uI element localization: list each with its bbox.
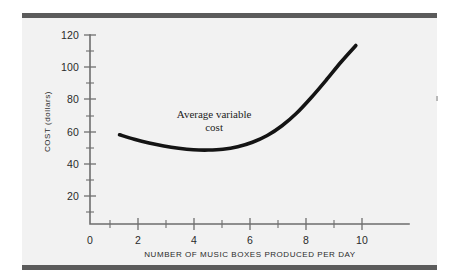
x-tick-label: 4	[191, 234, 197, 246]
axes	[90, 35, 409, 224]
x-tick-label: 10	[356, 234, 368, 246]
cost-curve-chart: 120 100 80 60 40 20 COST (dollars) 0	[0, 0, 459, 278]
average-variable-cost-label: Average variable cost	[177, 108, 252, 133]
y-axis-tick-labels: 120 100 80 60 40 20	[61, 29, 79, 202]
axis-lines	[90, 35, 409, 224]
average-variable-cost-curve	[120, 46, 356, 151]
y-axis-title: COST (dollars)	[43, 91, 52, 152]
x-tick-label: 2	[135, 234, 141, 246]
x-tick-label: 6	[247, 234, 253, 246]
x-tick-label: 8	[303, 234, 309, 246]
figure-container: 120 100 80 60 40 20 COST (dollars) 0	[0, 0, 459, 278]
y-tick-label: 80	[67, 93, 79, 105]
page-edge-mark	[436, 96, 438, 101]
y-tick-label: 120	[61, 29, 79, 41]
y-tick-label: 40	[67, 158, 79, 170]
annotation-line-1: Average variable	[177, 108, 252, 120]
x-axis-tick-labels: 0 2 4 6 8 10	[87, 234, 368, 246]
x-tick-label: 0	[87, 234, 93, 246]
x-axis-title: NUMBER OF MUSIC BOXES PRODUCED PER DAY	[144, 250, 356, 259]
y-tick-label: 100	[61, 61, 79, 73]
annotation-line-2: cost	[205, 121, 223, 133]
y-tick-label: 20	[67, 190, 79, 202]
y-tick-label: 60	[67, 126, 79, 138]
